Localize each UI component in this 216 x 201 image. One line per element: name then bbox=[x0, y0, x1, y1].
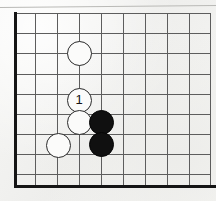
grid-line-horizontal-6 bbox=[15, 134, 210, 135]
board-left-border bbox=[14, 12, 17, 188]
grid-line-vertical-2 bbox=[57, 13, 58, 185]
grid-line-vertical-4 bbox=[101, 13, 102, 185]
grid-line-horizontal-5 bbox=[15, 114, 210, 115]
grid-line-vertical-9 bbox=[210, 13, 211, 185]
move-number-label: 1 bbox=[68, 89, 91, 112]
grid-line-vertical-5 bbox=[123, 13, 124, 185]
go-stone-black[interactable] bbox=[89, 110, 114, 135]
grid-line-vertical-8 bbox=[189, 13, 190, 185]
go-stone-white[interactable] bbox=[46, 133, 71, 158]
go-stone-black[interactable] bbox=[89, 132, 114, 157]
grid-line-horizontal-0 bbox=[15, 13, 210, 14]
board-bottom-border bbox=[14, 185, 216, 188]
grid-line-horizontal-2 bbox=[15, 53, 210, 54]
grid-line-horizontal-1 bbox=[15, 33, 210, 34]
grid-line-horizontal-8 bbox=[15, 174, 210, 175]
grid-line-vertical-7 bbox=[167, 13, 168, 185]
go-diagram-figure: 1 bbox=[0, 0, 216, 201]
go-stone-white[interactable] bbox=[67, 41, 92, 66]
go-board[interactable]: 1 bbox=[0, 0, 216, 201]
grid-line-vertical-6 bbox=[145, 13, 146, 185]
grid-line-horizontal-7 bbox=[15, 154, 210, 155]
grid-line-horizontal-3 bbox=[15, 74, 210, 75]
grid-line-horizontal-4 bbox=[15, 94, 210, 95]
go-stone-white-move-1[interactable]: 1 bbox=[67, 88, 92, 113]
go-stone-white[interactable] bbox=[67, 110, 92, 135]
grid-line-vertical-1 bbox=[35, 13, 36, 185]
